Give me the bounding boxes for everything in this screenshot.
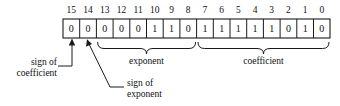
bit-number: 14: [80, 5, 97, 15]
annotation-line-2: coefficient: [0, 68, 57, 79]
bit-cell: 0: [314, 19, 331, 38]
bit-number: 0: [314, 5, 331, 15]
bit-number: 11: [130, 5, 147, 15]
bit-cell: 0: [113, 19, 130, 38]
bit-number: 10: [147, 5, 164, 15]
bit-number: 5: [230, 5, 247, 15]
bit-cell: 1: [247, 19, 264, 38]
annotation-line-1: sign of: [0, 57, 57, 68]
bit-number: 13: [96, 5, 113, 15]
bit-cell: 0: [96, 19, 113, 38]
bit-number: 6: [213, 5, 230, 15]
bit-number: 4: [247, 5, 264, 15]
bit-number: 3: [263, 5, 280, 15]
brace-coefficient: [198, 42, 329, 54]
leader-line-sign-of-coefficient: [58, 44, 72, 66]
brace-exponent: [98, 42, 196, 54]
annotation-line-2: exponent: [127, 89, 207, 100]
bit-cell: 1: [263, 19, 280, 38]
bit-number: 7: [197, 5, 214, 15]
arrowhead-sign-of-coefficient: [69, 39, 75, 46]
annotation-sign-of-exponent: sign of exponent: [127, 78, 207, 100]
bit-cell: 0: [63, 19, 80, 38]
bit-cell: 0: [130, 19, 147, 38]
annotation-line-1: sign of: [127, 78, 207, 89]
bit-number: 8: [180, 5, 197, 15]
bit-cell: 1: [297, 19, 314, 38]
bit-cell: 0: [80, 19, 97, 38]
bit-cell: 1: [163, 19, 180, 38]
bit-cell: 1: [230, 19, 247, 38]
bit-number: 9: [163, 5, 180, 15]
bit-cell: 1: [147, 19, 164, 38]
field-label-exponent: exponent: [117, 56, 177, 67]
bit-cell: 1: [213, 19, 230, 38]
bit-number: 12: [113, 5, 130, 15]
bit-cell: 0: [180, 19, 197, 38]
bit-cell: 1: [197, 19, 214, 38]
bit-field-diagram: 15 14 13 12 11 10 9 8 7 6 5 4 3 2 1 0 0 …: [0, 0, 340, 106]
bit-cell: 0: [280, 19, 297, 38]
bit-number: 1: [297, 5, 314, 15]
field-label-coefficient: coefficient: [232, 56, 296, 67]
annotation-sign-of-coefficient: sign of coefficient: [0, 57, 57, 79]
bit-number: 15: [63, 5, 80, 15]
arrowhead-sign-of-exponent: [86, 39, 92, 47]
bit-number: 2: [280, 5, 297, 15]
